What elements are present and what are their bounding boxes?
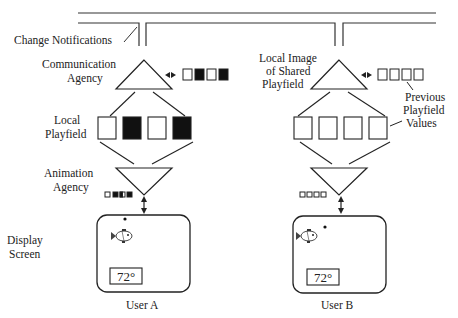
user-b-label: User B <box>321 299 354 311</box>
diagram-canvas: Change Notifications Communication Agenc… <box>0 0 458 318</box>
communication-agency-triangle-a <box>116 60 172 89</box>
communication-agency-label-2: Agency <box>67 72 103 85</box>
local-playfield-label-2: Playfield <box>45 128 87 141</box>
local-image-label-1: Local Image <box>259 52 317 65</box>
animation-agency-triangle-a <box>116 168 172 195</box>
animation-agency-label-1: Animation <box>44 167 93 179</box>
local-playfield-cells-b <box>294 117 387 139</box>
display-screen-label-1: Display <box>7 234 43 247</box>
shared-image-cells-b <box>378 69 423 80</box>
previous-values-label-1: Previous <box>405 91 446 103</box>
local-playfield-label-1: Local <box>54 114 80 126</box>
previous-values-pointer-2 <box>390 121 402 126</box>
local-image-label-2: of Shared <box>266 65 311 77</box>
communication-agency-label-1: Communication <box>42 58 116 70</box>
temperature-b: 72° <box>314 270 332 285</box>
local-playfield-cells-a <box>98 117 191 139</box>
ball-dot-b <box>323 225 326 228</box>
animation-agency-triangle-b <box>311 168 367 195</box>
double-arrow-icon <box>165 72 176 78</box>
user-b-column: Previous Playfield Values <box>293 60 446 311</box>
vertical-arrow-icon-a <box>141 196 147 214</box>
previous-values-label-2: Playfield <box>403 104 445 117</box>
network-bus <box>78 13 436 46</box>
previous-values-label-3: Values <box>406 117 437 129</box>
local-image-label-3: Playfield <box>262 78 304 91</box>
communication-agency-triangle-b <box>311 60 367 89</box>
vertical-arrow-icon-b <box>338 196 344 214</box>
animation-cells-a <box>105 192 132 197</box>
change-notifications-label: Change Notifications <box>14 34 113 47</box>
user-a-label: User A <box>126 299 159 311</box>
previous-values-pointer <box>407 82 413 90</box>
ball-dot-a <box>123 217 126 220</box>
user-a-column: Communication Agency Local Image of Shar… <box>7 52 317 311</box>
change-notifications-pointer <box>124 27 137 42</box>
temperature-a: 72° <box>117 269 135 284</box>
display-screen-label-2: Screen <box>9 248 41 260</box>
shared-image-cells-a <box>183 69 228 80</box>
animation-cells-b <box>300 192 326 197</box>
double-arrow-icon <box>361 72 372 78</box>
animation-agency-label-2: Agency <box>53 181 89 194</box>
